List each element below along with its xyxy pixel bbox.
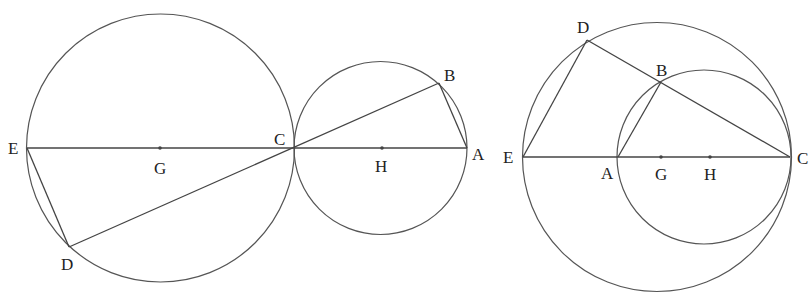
right-point-label-D: D xyxy=(577,18,589,37)
right-point-label-E: E xyxy=(503,148,513,167)
right-point-label-C: C xyxy=(797,149,808,168)
left-point-label-E: E xyxy=(8,139,18,158)
right-center-dot-G xyxy=(659,155,663,159)
left-point-label-H: H xyxy=(375,157,387,176)
left-point-label-D: D xyxy=(61,255,73,274)
right-point-label-G: G xyxy=(655,165,667,184)
left-point-label-A: A xyxy=(472,145,485,164)
left-segment-ED xyxy=(27,148,69,247)
right-point-label-B: B xyxy=(656,61,667,80)
right-point-label-H: H xyxy=(704,165,716,184)
left-segment-BA xyxy=(439,83,467,148)
left-center-dot-G xyxy=(158,146,162,150)
right-segment-ED xyxy=(523,40,587,157)
left-point-label-G: G xyxy=(154,159,166,178)
geometry-figures: EGCHABD EAGHCDB xyxy=(0,0,812,303)
right-segment-DC xyxy=(587,40,790,157)
right-point-label-A: A xyxy=(601,164,614,183)
left-point-label-B: B xyxy=(444,66,455,85)
right-figure-internally-tangent-circles: EAGHCDB xyxy=(503,18,808,292)
left-center-dot-H xyxy=(380,146,384,150)
right-center-dot-H xyxy=(708,155,712,159)
left-figure-tangent-circles: EGCHABD xyxy=(8,14,485,282)
left-point-label-C: C xyxy=(274,130,285,149)
right-segment-AB xyxy=(618,82,661,157)
